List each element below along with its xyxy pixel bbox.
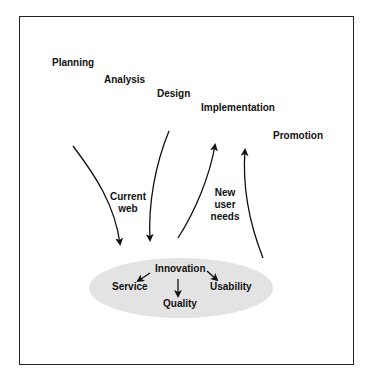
phase-analysis: Analysis	[104, 74, 145, 86]
label-current-web: Current web	[108, 191, 148, 215]
arrow-core-to-promotion	[244, 150, 263, 258]
core-innovation: Innovation	[155, 263, 206, 275]
core-service: Service	[112, 281, 148, 293]
arrow-design-to-core	[150, 131, 169, 240]
core-quality: Quality	[163, 298, 197, 310]
phase-design: Design	[157, 88, 190, 100]
label-new-user-needs: New user needs	[209, 187, 241, 223]
core-usability: Usability	[210, 281, 252, 293]
phase-planning: Planning	[52, 57, 94, 69]
phase-implementation: Implementation	[201, 102, 275, 114]
phase-promotion: Promotion	[273, 130, 323, 142]
